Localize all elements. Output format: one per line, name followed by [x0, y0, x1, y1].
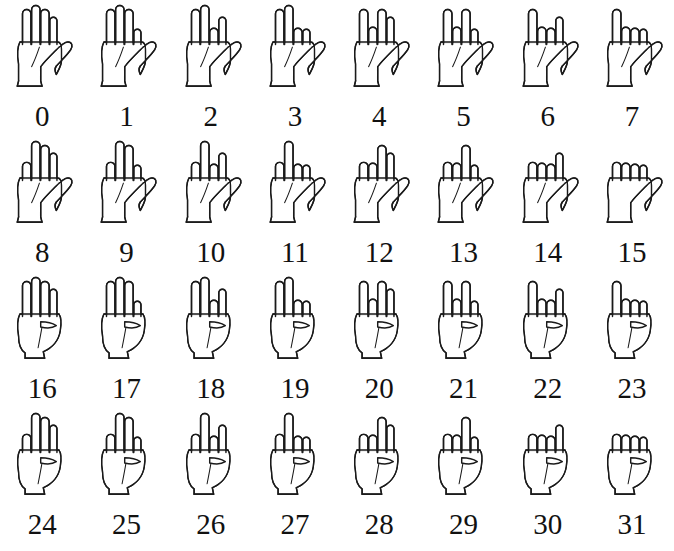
hand-sign-label: 23 [617, 373, 646, 403]
hand-sign-cell: 14 [506, 138, 590, 274]
hand-icon [337, 138, 421, 238]
hand-icon [506, 274, 590, 374]
hand-icon [337, 410, 421, 510]
hand-sign-label: 21 [449, 373, 478, 403]
hand-sign-cell: 24 [0, 410, 84, 546]
hand-sign-label: 15 [617, 237, 646, 267]
hand-icon [590, 138, 674, 238]
hand-sign-label: 7 [625, 101, 640, 131]
hand-icon [169, 2, 253, 102]
hand-sign-label: 31 [617, 509, 646, 539]
hand-sign-label: 25 [112, 509, 141, 539]
hand-sign-cell: 28 [337, 410, 421, 546]
hand-icon [253, 274, 337, 374]
hand-icon [421, 2, 505, 102]
hand-icon [0, 274, 84, 374]
figure-caption [0, 540, 674, 551]
hand-sign-label: 9 [119, 237, 134, 267]
hand-icon [169, 138, 253, 238]
hand-icon [84, 274, 168, 374]
hand-sign-cell: 2 [169, 2, 253, 138]
hand-sign-cell: 26 [169, 410, 253, 546]
hand-icon [253, 138, 337, 238]
hand-icon [169, 274, 253, 374]
hand-sign-label: 0 [35, 101, 50, 131]
hand-sign-label: 17 [112, 373, 141, 403]
hand-sign-label: 27 [280, 509, 309, 539]
hand-sign-label: 16 [28, 373, 57, 403]
hand-sign-label: 20 [365, 373, 394, 403]
hand-sign-cell: 10 [169, 138, 253, 274]
hand-icon [0, 410, 84, 510]
hand-sign-cell: 20 [337, 274, 421, 410]
hand-icon [0, 138, 84, 238]
hand-icon [421, 410, 505, 510]
hand-sign-cell: 21 [421, 274, 505, 410]
hand-icon [169, 410, 253, 510]
hand-sign-cell: 9 [84, 138, 168, 274]
hand-sign-cell: 17 [84, 274, 168, 410]
hand-sign-label: 6 [540, 101, 555, 131]
hand-sign-cell: 22 [506, 274, 590, 410]
hand-sign-cell: 16 [0, 274, 84, 410]
hand-sign-cell: 1 [84, 2, 168, 138]
hand-sign-label: 1 [119, 101, 134, 131]
hand-sign-cell: 29 [421, 410, 505, 546]
hand-sign-cell: 3 [253, 2, 337, 138]
hand-sign-cell: 13 [421, 138, 505, 274]
hand-sign-cell: 6 [506, 2, 590, 138]
hand-sign-label: 3 [288, 101, 303, 131]
hand-icon [506, 410, 590, 510]
hand-sign-cell: 18 [169, 274, 253, 410]
hand-sign-label: 5 [456, 101, 471, 131]
hand-sign-label: 22 [533, 373, 562, 403]
hand-sign-label: 29 [449, 509, 478, 539]
hand-sign-label: 11 [281, 237, 309, 267]
hand-sign-cell: 30 [506, 410, 590, 546]
hand-sign-cell: 23 [590, 274, 674, 410]
hand-icon [506, 138, 590, 238]
hand-icon [84, 138, 168, 238]
hand-icon [421, 138, 505, 238]
hand-sign-cell: 11 [253, 138, 337, 274]
hand-icon [253, 2, 337, 102]
hand-sign-label: 28 [365, 509, 394, 539]
hand-sign-grid: 0123456789101112131415161718192021222324… [0, 0, 674, 546]
hand-icon [590, 274, 674, 374]
hand-sign-cell: 25 [84, 410, 168, 546]
hand-sign-cell: 12 [337, 138, 421, 274]
hand-icon [337, 274, 421, 374]
hand-icon [337, 2, 421, 102]
hand-sign-cell: 7 [590, 2, 674, 138]
hand-sign-label: 12 [365, 237, 394, 267]
hand-sign-label: 24 [28, 509, 57, 539]
hand-sign-cell: 8 [0, 138, 84, 274]
hand-sign-label: 14 [533, 237, 562, 267]
hand-sign-label: 10 [196, 237, 225, 267]
hand-sign-label: 30 [533, 509, 562, 539]
hand-sign-cell: 19 [253, 274, 337, 410]
hand-icon [590, 410, 674, 510]
hand-sign-cell: 5 [421, 2, 505, 138]
hand-icon [590, 2, 674, 102]
hand-sign-label: 13 [449, 237, 478, 267]
hand-icon [506, 2, 590, 102]
hand-sign-label: 2 [203, 101, 218, 131]
hand-sign-label: 26 [196, 509, 225, 539]
hand-sign-label: 18 [196, 373, 225, 403]
hand-sign-label: 8 [35, 237, 50, 267]
hand-sign-cell: 4 [337, 2, 421, 138]
hand-sign-cell: 27 [253, 410, 337, 546]
hand-sign-label: 19 [280, 373, 309, 403]
hand-icon [0, 2, 84, 102]
hand-icon [84, 410, 168, 510]
hand-icon [253, 410, 337, 510]
hand-icon [421, 274, 505, 374]
hand-sign-cell: 0 [0, 2, 84, 138]
hand-sign-label: 4 [372, 101, 387, 131]
hand-sign-cell: 15 [590, 138, 674, 274]
hand-icon [84, 2, 168, 102]
hand-sign-cell: 31 [590, 410, 674, 546]
